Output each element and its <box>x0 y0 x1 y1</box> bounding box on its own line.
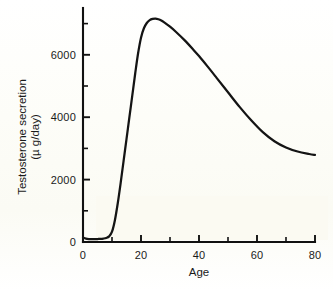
data-series-curve <box>83 19 315 240</box>
x-tick-label: 20 <box>135 249 148 261</box>
x-tick-label: 40 <box>193 249 206 261</box>
x-axis-title: Age <box>189 266 209 278</box>
series-line-testosterone-secretion <box>83 19 315 240</box>
x-tick-label: 0 <box>80 249 86 261</box>
y-axis-title: Testosterone secretion (µ g/day) <box>12 52 46 222</box>
testosterone-secretion-chart: 0200040006000 020406080 Age Testosterone… <box>0 0 333 291</box>
y-axis-title-line2: (µ g/day) <box>29 79 42 195</box>
x-tick-label: 80 <box>309 249 322 261</box>
x-tick-label: 60 <box>251 249 264 261</box>
y-tick-label: 0 <box>36 236 76 248</box>
y-axis-title-line1: Testosterone secretion <box>16 79 29 195</box>
